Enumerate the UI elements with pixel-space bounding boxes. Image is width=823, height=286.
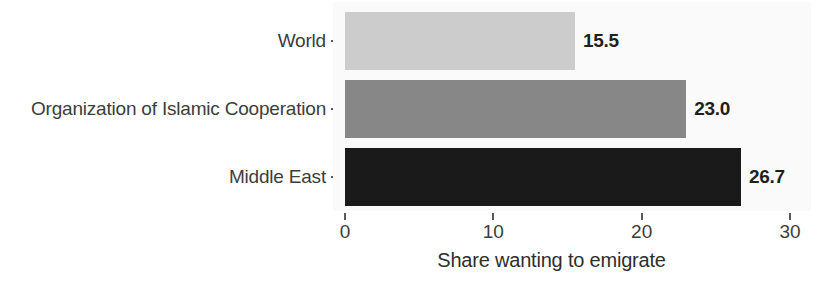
x-axis-tick-label-10: 10 (483, 221, 504, 243)
x-axis-tick-20 (641, 213, 643, 220)
x-axis-tick-label-20: 20 (631, 221, 652, 243)
plot-panel: 15.5 23.0 26.7 (333, 2, 811, 211)
bar-value-world: 15.5 (583, 30, 619, 52)
x-axis-title-text: Share wanting to emigrate (437, 249, 665, 272)
x-axis-tick-0 (344, 213, 346, 220)
x-axis-tick-30 (789, 213, 791, 220)
x-axis-tick-10 (492, 213, 494, 220)
chart-figure: World Organization of Islamic Cooperatio… (0, 0, 823, 286)
y-axis-label-middle-east: Middle East (229, 166, 326, 188)
x-axis-title: Share wanting to emigrate (0, 249, 823, 272)
bar-value-middle-east: 26.7 (749, 166, 785, 188)
bar-middle-east (345, 148, 741, 206)
y-axis-label-world: World (278, 30, 326, 52)
x-axis-tick-label-0: 0 (340, 221, 351, 243)
bar-world (345, 12, 575, 70)
bar-organization-of-islamic-cooperation (345, 80, 686, 138)
bar-value-organization-of-islamic-cooperation: 23.0 (694, 98, 730, 120)
y-axis-label-organization-of-islamic-cooperation: Organization of Islamic Cooperation (31, 98, 326, 120)
x-axis-tick-label-30: 30 (779, 221, 800, 243)
